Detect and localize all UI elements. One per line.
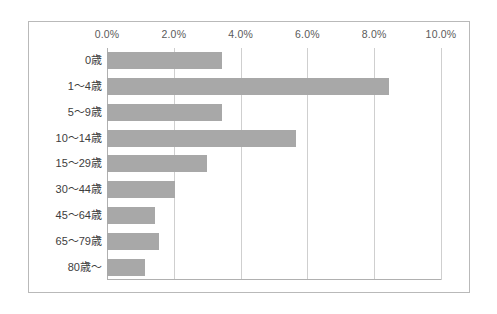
category-label: 65〜79歳 (56, 233, 102, 250)
bar (107, 155, 207, 172)
bar (107, 78, 389, 95)
plot-area: 0歳1〜4歳5〜9歳10〜14歳15〜29歳30〜44歳45〜64歳65〜79歳… (107, 48, 441, 280)
category-label: 0歳 (85, 52, 102, 69)
bar-row: 80歳〜 (107, 254, 441, 280)
bar (107, 104, 222, 121)
bar-row: 1〜4歳 (107, 74, 441, 100)
bar (107, 207, 155, 224)
x-tick-label: 6.0% (295, 28, 320, 40)
bar (107, 259, 145, 276)
category-label: 45〜64歳 (56, 207, 102, 224)
x-axis-tick-labels: 0.0%2.0%4.0%6.0%8.0%10.0% (29, 28, 469, 46)
bar-row: 15〜29歳 (107, 151, 441, 177)
x-tick-label: 4.0% (228, 28, 253, 40)
bar-row: 30〜44歳 (107, 177, 441, 203)
x-tick-label: 10.0% (426, 28, 457, 40)
bar-row: 45〜64歳 (107, 203, 441, 229)
category-label: 10〜14歳 (56, 130, 102, 147)
category-label: 15〜29歳 (56, 155, 102, 172)
bar-row: 5〜9歳 (107, 100, 441, 126)
x-axis-baseline (107, 279, 441, 280)
chart-figure: 0.0%2.0%4.0%6.0%8.0%10.0% 0歳1〜4歳5〜9歳10〜1… (28, 21, 470, 293)
gridline (441, 48, 442, 280)
category-label: 30〜44歳 (56, 181, 102, 198)
bar-row: 65〜79歳 (107, 228, 441, 254)
category-label: 80歳〜 (68, 259, 102, 276)
bar (107, 130, 296, 147)
bar (107, 52, 222, 69)
category-label: 5〜9歳 (68, 104, 102, 121)
bar-row: 0歳 (107, 48, 441, 74)
x-tick-label: 8.0% (362, 28, 387, 40)
bar-series: 0歳1〜4歳5〜9歳10〜14歳15〜29歳30〜44歳45〜64歳65〜79歳… (107, 48, 441, 280)
category-label: 1〜4歳 (68, 78, 102, 95)
bar (107, 181, 175, 198)
x-tick-label: 0.0% (95, 28, 120, 40)
bar-row: 10〜14歳 (107, 125, 441, 151)
x-tick-label: 2.0% (161, 28, 186, 40)
bar (107, 233, 159, 250)
